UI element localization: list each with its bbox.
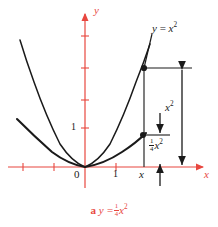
x-axis-label: x [204,169,209,180]
quarter-x-squared-measure-label: 1 4 x2 [149,138,163,153]
caption-text: y = [99,204,114,216]
curve-label-y-equals-x-squared: y = x2 [152,22,177,34]
y-axis-label: y [94,5,99,16]
x-axis [8,163,203,171]
caption-marker: a [90,204,96,216]
point-on-quarter-x-squared [140,132,146,138]
origin-label: 0 [74,169,80,180]
point-on-x-squared [141,65,147,71]
curve-label-exponent: 2 [174,21,178,29]
abscissa-marker-label: x [139,169,144,180]
curve-label-pointer [144,34,152,68]
curve-y-equals-quarter-x-squared [17,119,146,167]
x-tick-label-one: 1 [113,169,118,179]
x-squared-exponent: 2 [170,100,174,108]
figure-caption: a y =14x2 [0,203,218,218]
figure-container: y x 0 1 1 y = x2 x2 1 4 x2 x a y =14x2 [0,0,218,227]
curve-label-equals: = [160,22,166,34]
caption-exponent: 2 [124,203,128,211]
y-tick-label-one: 1 [71,122,76,132]
graph-canvas [0,0,218,227]
curve-label-lhs: y [152,22,157,34]
x-squared-measure-label: x2 [165,101,174,113]
y-axis [81,14,89,188]
quarter-exponent: 2 [159,138,163,146]
